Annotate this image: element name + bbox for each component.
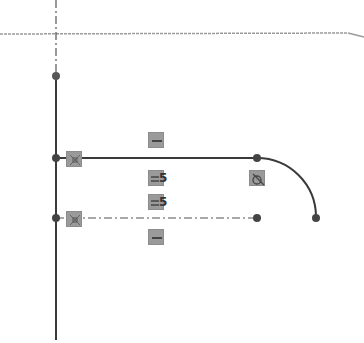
horizontal-constraint-icon[interactable]	[148, 229, 164, 245]
perpendicular-constraint-icon[interactable]	[66, 211, 82, 227]
equal-constraint-icon[interactable]: 5	[148, 194, 164, 210]
equal-subscript: 5	[159, 196, 167, 208]
equal-subscript: 5	[159, 172, 167, 184]
sketch-geometry	[0, 0, 364, 343]
point-arc-end[interactable]	[312, 214, 320, 222]
horizontal-axis[interactable]	[0, 33, 348, 34]
sketch-canvas[interactable]: 5 5	[0, 0, 364, 343]
point-arc-start[interactable]	[253, 154, 261, 162]
point-center-start[interactable]	[52, 214, 60, 222]
point-line-start[interactable]	[52, 154, 60, 162]
perpendicular-constraint-icon[interactable]	[66, 151, 82, 167]
equal-constraint-icon[interactable]: 5	[148, 170, 164, 186]
tangent-constraint-icon[interactable]	[249, 170, 265, 186]
horizontal-constraint-icon[interactable]	[148, 132, 164, 148]
point-top[interactable]	[52, 72, 60, 80]
horizontal-axis-tail	[348, 33, 364, 37]
point-arc-center[interactable]	[253, 214, 261, 222]
arc[interactable]	[257, 158, 316, 217]
